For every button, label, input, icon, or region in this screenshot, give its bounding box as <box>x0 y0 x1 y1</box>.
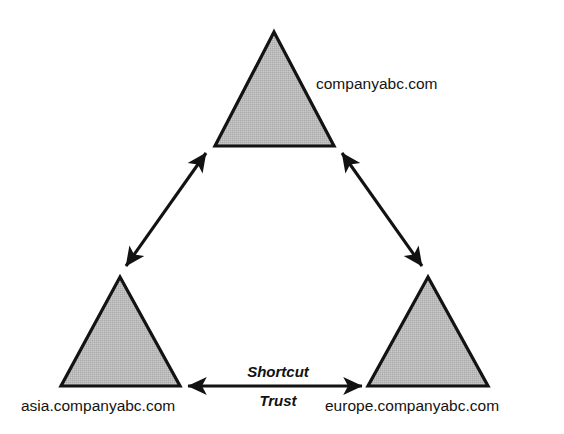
connection-asia-to-root <box>126 153 206 266</box>
node-asia-domain: asia.companyabc.com <box>21 277 180 414</box>
node-label-asia-domain: asia.companyabc.com <box>21 397 175 414</box>
domain-triangle-icon <box>368 277 488 386</box>
node-label-europe-domain: europe.companyabc.com <box>325 397 499 414</box>
node-label-root-domain: companyabc.com <box>316 75 437 92</box>
node-root-domain: companyabc.com <box>215 32 437 146</box>
trust-arrow-europe-root <box>342 153 422 266</box>
node-europe-domain: europe.companyabc.com <box>325 277 499 414</box>
diagram-canvas: companyabc.com asia.companyabc.com europ… <box>0 0 564 434</box>
domain-trust-diagram: companyabc.com asia.companyabc.com europ… <box>0 0 564 434</box>
shortcut-trust-label-line2: Trust <box>259 392 297 409</box>
connection-europe-to-root <box>342 153 422 266</box>
shortcut-trust-label-line1: Shortcut <box>247 363 310 380</box>
domain-triangle-icon <box>61 277 180 386</box>
trust-arrow-asia-root <box>126 153 206 266</box>
